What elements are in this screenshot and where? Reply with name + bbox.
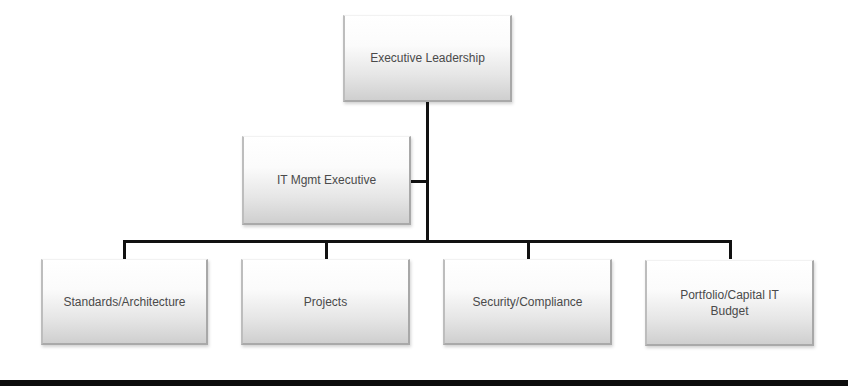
node-portfolio-capital-it-budget: Portfolio/Capital IT Budget [645,260,814,346]
connector-drop-security [527,240,530,259]
connector-executive-trunk [426,101,429,243]
connector-drop-portfolio [729,240,732,259]
connector-drop-standards [123,240,126,259]
connector-drop-projects [325,240,328,259]
node-standards-architecture: Standards/Architecture [41,259,208,345]
org-chart: Executive Leadership IT Mgmt Executive S… [0,0,848,386]
node-security-compliance: Security/Compliance [443,259,612,345]
connector-horizontal-bus [123,240,732,243]
bottom-border-bar [0,380,848,386]
node-executive-leadership: Executive Leadership [343,15,512,102]
node-label: Projects [304,294,347,310]
node-label: Standards/Architecture [63,294,185,310]
node-it-mgmt-executive: IT Mgmt Executive [242,136,411,225]
node-label: Portfolio/Capital IT Budget [665,287,795,319]
node-label: IT Mgmt Executive [277,172,376,188]
node-label: Executive Leadership [370,50,485,66]
node-projects: Projects [241,259,410,345]
connector-it-mgmt-branch [410,180,428,183]
node-label: Security/Compliance [472,294,582,310]
